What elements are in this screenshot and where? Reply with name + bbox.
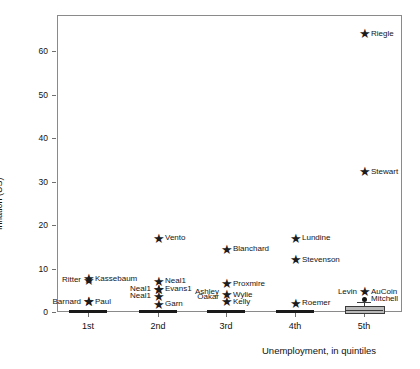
boxplot-1st bbox=[69, 310, 107, 313]
point-label: Vento bbox=[165, 234, 185, 242]
y-tick-label: 0 bbox=[26, 307, 48, 317]
y-tick-mark bbox=[52, 312, 56, 313]
x-tick-mark bbox=[88, 313, 89, 317]
star-marker-icon: ★ bbox=[221, 295, 233, 308]
point-label: Neal1 bbox=[130, 292, 151, 300]
x-tick-label-5th: 5th bbox=[344, 321, 384, 331]
x-tick-label-2nd: 2nd bbox=[138, 321, 178, 331]
point-label: Proxmire bbox=[233, 280, 265, 288]
point-label: Evans1 bbox=[165, 285, 192, 293]
x-axis-title: Unemployment, in quintiles bbox=[262, 345, 376, 356]
y-tick-mark bbox=[52, 269, 56, 270]
chart-root: 0102030405060 1st2nd3rd4th5th ★Barnard★P… bbox=[0, 0, 420, 369]
x-tick-label-3rd: 3rd bbox=[206, 321, 246, 331]
star-marker-icon: ★ bbox=[359, 165, 371, 178]
point-label: Mitchell bbox=[371, 295, 398, 303]
y-tick-mark bbox=[52, 138, 56, 139]
y-tick-mark bbox=[52, 51, 56, 52]
star-marker-icon: ★ bbox=[83, 295, 95, 308]
y-tick-label: 40 bbox=[26, 133, 48, 143]
point-label: Ritter bbox=[62, 276, 81, 284]
boxplot-median bbox=[345, 310, 383, 311]
point-label: Blanchard bbox=[233, 245, 269, 253]
star-marker-icon: ★ bbox=[83, 272, 95, 285]
point-label: Garn bbox=[165, 300, 183, 308]
point-label: Oakar bbox=[197, 293, 219, 301]
star-marker-icon: ★ bbox=[290, 253, 302, 266]
y-tick-label: 60 bbox=[26, 46, 48, 56]
x-tick-label-1st: 1st bbox=[68, 321, 108, 331]
point-label: Paul bbox=[95, 298, 111, 306]
point-label: Lundine bbox=[302, 234, 330, 242]
x-tick-mark bbox=[295, 313, 296, 317]
star-marker-icon: ★ bbox=[153, 232, 165, 245]
star-marker-icon: ★ bbox=[221, 243, 233, 256]
star-marker-icon: ★ bbox=[290, 232, 302, 245]
point-label: Riegle bbox=[371, 30, 394, 38]
point-label: Kassebaum bbox=[95, 275, 137, 283]
star-marker-icon: ★ bbox=[290, 297, 302, 310]
dot-marker-icon bbox=[362, 297, 367, 302]
boxplot-3rd bbox=[207, 310, 245, 313]
y-tick-mark bbox=[52, 182, 56, 183]
y-tick-mark bbox=[52, 95, 56, 96]
x-tick-mark bbox=[226, 313, 227, 317]
point-label: Barnard bbox=[53, 298, 81, 306]
y-tick-label: 10 bbox=[26, 264, 48, 274]
point-label: Stewart bbox=[371, 168, 398, 176]
y-tick-label: 50 bbox=[26, 90, 48, 100]
x-tick-label-4th: 4th bbox=[275, 321, 315, 331]
star-marker-icon: ★ bbox=[359, 27, 371, 40]
point-label: Stevenson bbox=[302, 256, 340, 264]
y-tick-label: 30 bbox=[26, 177, 48, 187]
point-label: Roemer bbox=[302, 299, 330, 307]
y-tick-mark bbox=[52, 225, 56, 226]
y-tick-label: 20 bbox=[26, 220, 48, 230]
x-tick-mark bbox=[158, 313, 159, 317]
point-label: Levin bbox=[338, 288, 357, 296]
plot-area bbox=[57, 15, 402, 312]
y-axis-title: Inflation (US) bbox=[0, 177, 4, 230]
point-label: Kelly bbox=[233, 298, 250, 306]
star-marker-icon: ★ bbox=[153, 298, 165, 311]
